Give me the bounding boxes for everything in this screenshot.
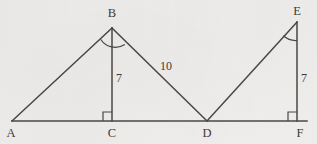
hypotenuse-D-E [207,22,297,121]
vertex-label-d: D [202,127,211,140]
right-angle-at-f [288,112,297,121]
angle-arc-at-b [101,40,125,48]
side-A-B [12,28,112,121]
length-label-ef: 7 [301,72,307,84]
length-label-bc: 7 [116,72,122,84]
vertex-label-a: A [6,127,15,140]
vertex-label-e: E [293,5,301,18]
right-angle-at-c [103,112,112,121]
vertex-label-b: B [108,7,116,20]
vertex-label-c: C [108,127,116,140]
angle-arc-at-e [283,36,297,41]
vertex-label-f: F [297,127,304,140]
geometry-canvas [0,0,317,144]
geometry-figure: A B C D E F 7 10 7 [0,0,317,144]
hypotenuse-B-D [112,28,207,121]
length-label-bd: 10 [160,60,172,72]
